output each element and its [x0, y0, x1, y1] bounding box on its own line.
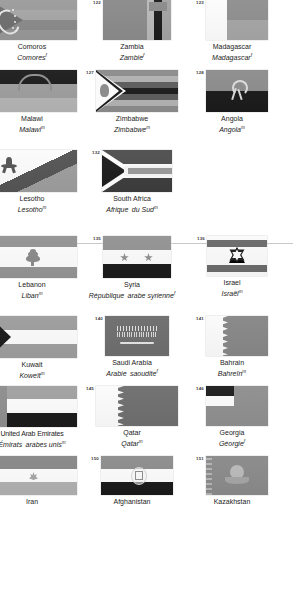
flag-entry-iran[interactable]: Iran: [0, 456, 82, 507]
flag-entry-malawi[interactable]: Malawi Malawim: [0, 70, 82, 134]
flag-entry-kuwait[interactable]: Kuwait Koweïtm: [0, 316, 82, 380]
section-middle-east-asia: Lebanon Libanm 135: [0, 222, 293, 516]
flag-entry-afghanistan[interactable]: 150 Afghanistan: [82, 456, 182, 507]
section-africa: Comoros Comoresf 122 Zamb: [0, 0, 293, 222]
flag-name-fr: Angolam: [182, 124, 282, 135]
sword-icon: [120, 342, 154, 344]
flag-row: Lesotho Lesothom 132: [0, 142, 293, 222]
flag-name-fr: Géorgief: [182, 438, 282, 449]
flag-labels: United Arab Emirates Émirats arabes unis…: [0, 430, 82, 449]
flag-name-en: Comoros: [0, 43, 82, 52]
flag-name-en: Zambia: [82, 43, 182, 52]
flag-image-uae: [0, 386, 77, 427]
flag-entry-south-africa[interactable]: 132 South Africa Afrique du Sudm: [82, 150, 182, 214]
flag-entry-lebanon[interactable]: Lebanon Libanm: [0, 236, 82, 300]
entry-number: 127: [86, 71, 94, 75]
flag-labels: Zambia Zambief: [82, 43, 182, 62]
flag-entry-zimbabwe[interactable]: 127: [82, 70, 182, 134]
entry-number: 145: [86, 387, 94, 391]
flag-image-lebanon: [0, 236, 77, 278]
flag-image-zambia: [103, 0, 171, 40]
flag-entry-lesotho[interactable]: Lesotho Lesothom: [0, 150, 82, 214]
flag-name-en: Malawi: [0, 115, 82, 124]
entry-number: 140: [95, 317, 103, 321]
flag-image-lesotho: [0, 150, 77, 192]
gender-marker: m: [146, 125, 150, 130]
eagle-icon: [225, 477, 249, 484]
gender-marker: m: [242, 369, 246, 374]
entry-number: 123: [196, 1, 204, 5]
gender-marker: m: [239, 289, 243, 294]
gender-marker: m: [241, 125, 245, 130]
flag-row: Kuwait Koweïtm 140 Saudi Arabia Arabie s…: [0, 316, 293, 386]
flag-labels: Iran: [0, 498, 82, 507]
flag-entry-madagascar[interactable]: 123 Madagascar Madagascarf: [182, 0, 282, 62]
entry-number: 141: [196, 317, 204, 321]
flag-entry-israel[interactable]: 136 Israel: [182, 236, 282, 298]
flag-image-comoros: [0, 0, 77, 40]
flag-labels: Saudi Arabia Arabie saouditef: [82, 359, 182, 378]
flag-row: Lebanon Libanm 135: [0, 236, 293, 316]
flag-row: Comoros Comoresf 122 Zamb: [0, 0, 293, 62]
flag-entry-kazakhstan[interactable]: 151 Kazakhstan: [182, 456, 282, 507]
flag-image-kuwait: [0, 316, 77, 358]
hoist-band: [0, 386, 7, 427]
flag-name-en: Bahrain: [182, 359, 282, 368]
flag-entry-bahrain[interactable]: 141 Bahrain Bahreïnm: [182, 316, 282, 378]
flag-name-en: Israel: [182, 279, 282, 288]
flag-entry-qatar[interactable]: 145 Qatar Qatarm: [82, 386, 182, 448]
gender-marker: f: [156, 369, 157, 374]
flag-labels: Israel Israëlm: [182, 279, 282, 298]
flag-labels: South Africa Afrique du Sudm: [82, 195, 182, 214]
flag-name-en: Lesotho: [0, 195, 82, 204]
flag-labels: Kuwait Koweïtm: [0, 361, 82, 380]
gender-marker: m: [41, 125, 45, 130]
flag-entry-uae[interactable]: United Arab Emirates Émirats arabes unis…: [0, 386, 82, 449]
flag-name-en: United Arab Emirates: [0, 430, 82, 439]
gender-marker: m: [39, 291, 43, 296]
flag-name-fr: Lesothom: [0, 204, 82, 215]
flag-name-fr: République arabe syriennef: [82, 290, 182, 301]
flag-labels: Madagascar Madagascarf: [182, 43, 282, 62]
machete-cog-star-icon: [230, 80, 246, 100]
flag-name-en: Afghanistan: [82, 498, 182, 507]
flag-name-en: Iran: [0, 498, 82, 507]
flag-name-en: Lebanon: [0, 281, 82, 290]
flag-image-syria: [103, 236, 171, 278]
flag-entry-syria[interactable]: 135 Syria République arabe syriennef: [82, 236, 182, 300]
entry-number: 136: [197, 237, 205, 241]
flag-entry-angola[interactable]: 128 Angola Angolam: [182, 70, 282, 134]
flag-labels: Angola Angolam: [182, 115, 282, 134]
gender-marker: m: [41, 371, 45, 376]
flag-name-fr: Malawim: [0, 124, 82, 135]
flag-name-en: South Africa: [82, 195, 182, 204]
flag-labels: Malawi Malawim: [0, 115, 82, 134]
gender-marker: f: [251, 53, 252, 58]
flag-entry-saudi-arabia[interactable]: 140 Saudi Arabia Arabie saouditef: [82, 316, 182, 378]
flag-entry-zambia[interactable]: 122 Zambia Zambief: [82, 0, 182, 62]
flag-name-en: Angola: [182, 115, 282, 124]
star-of-david-icon: [229, 247, 245, 263]
flag-image-iran: [0, 456, 77, 495]
entry-number: 128: [196, 71, 204, 75]
flag-name-fr: Madagascarf: [182, 52, 282, 63]
flag-labels: Kazakhstan: [182, 498, 282, 507]
flag-name-fr: Libanm: [0, 290, 82, 301]
shahada-script-icon: [117, 326, 157, 337]
gender-marker: f: [244, 439, 245, 444]
flag-entry-comoros[interactable]: Comoros Comoresf: [0, 0, 82, 62]
gender-marker: f: [174, 291, 175, 296]
flag-name-fr: Afrique du Sudm: [82, 204, 182, 215]
flag-entry-georgia[interactable]: 146 Georgia Géorgief: [182, 386, 282, 448]
entry-number: 150: [91, 457, 99, 461]
gender-marker: f: [46, 53, 47, 58]
entry-number: 135: [93, 237, 101, 241]
gender-marker: f: [143, 53, 144, 58]
flag-name-fr: Comoresf: [0, 52, 82, 63]
flag-image-israel: [207, 236, 267, 276]
flag-name-fr: Émirats arabes unism: [0, 439, 82, 450]
entry-number: 132: [92, 151, 100, 155]
flag-name-en: Kazakhstan: [182, 498, 282, 507]
flag-name-fr: Bahreïnm: [182, 368, 282, 379]
flag-name-en: Syria: [82, 281, 182, 290]
